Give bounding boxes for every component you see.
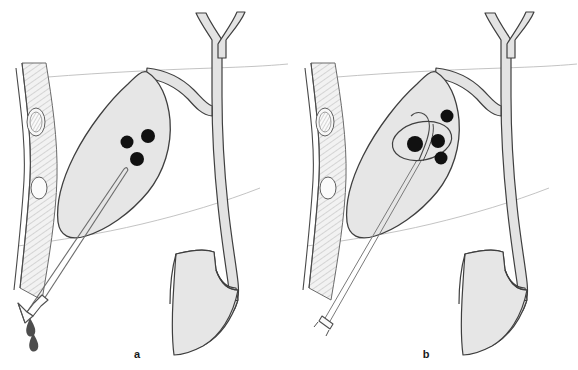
basket-hub-icon bbox=[314, 316, 333, 336]
rib-lower-icon bbox=[320, 177, 336, 199]
panel-a-gallbladder bbox=[58, 72, 171, 238]
rib-upper-icon bbox=[316, 108, 334, 136]
panel-a: a bbox=[14, 12, 288, 360]
gallstone bbox=[431, 134, 445, 148]
panel-b-abdominal-wall bbox=[303, 63, 346, 300]
gallstone bbox=[121, 136, 134, 149]
gallstone bbox=[141, 129, 155, 143]
gallstone bbox=[130, 152, 144, 166]
gallstone bbox=[441, 110, 454, 123]
rib-upper-icon bbox=[27, 108, 45, 136]
panel-label-b: b bbox=[423, 348, 430, 360]
figure-container: a bbox=[0, 0, 578, 370]
panel-b: b bbox=[303, 12, 577, 360]
gallbladder-procedure-figure: a bbox=[0, 0, 578, 370]
gallstone-captured bbox=[407, 136, 423, 152]
gallstone bbox=[435, 152, 448, 165]
panel-label-a: a bbox=[134, 348, 141, 360]
catheter-hub-icon bbox=[18, 295, 48, 323]
panel-a-abdominal-wall bbox=[14, 63, 57, 300]
rib-lower-icon bbox=[31, 177, 47, 199]
